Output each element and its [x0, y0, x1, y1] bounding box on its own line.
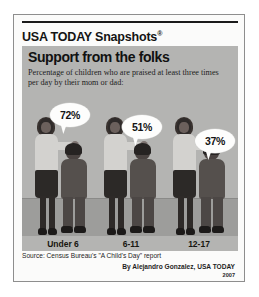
adult-leg-right	[49, 196, 55, 230]
adult-leg-right	[118, 196, 124, 230]
child-figure	[60, 144, 90, 236]
value-label: 37%	[195, 129, 235, 153]
child-leg-left	[201, 197, 211, 228]
child-torso	[199, 159, 225, 199]
chart-title: Support from the folks	[28, 49, 169, 65]
adult-face	[110, 122, 120, 133]
child-shoe-left	[61, 226, 73, 233]
adult-leg-right	[187, 196, 193, 230]
masthead-brand-text: USA TODAY Snapshots	[22, 30, 157, 44]
value-label: 51%	[122, 115, 162, 139]
chart-subtitle: Percentage of children who are praised a…	[28, 68, 230, 87]
byline-year: 2007	[223, 272, 235, 278]
child-torso	[130, 159, 156, 199]
child-leg-left	[132, 197, 142, 228]
adult-leg-left	[40, 196, 46, 230]
axis-label-12-17: 12-17	[166, 239, 232, 249]
masthead: USA TODAY Snapshots®	[22, 21, 238, 48]
child-shoe-left	[199, 226, 211, 233]
registered-trademark-icon: ®	[157, 30, 162, 37]
adult-shoe-left	[107, 228, 116, 235]
child-shoe-left	[130, 226, 142, 233]
adult-face	[179, 122, 189, 133]
child-figure	[129, 144, 159, 236]
adult-figure	[32, 118, 62, 236]
source-note: Source: Census Bureau's "A Child's Day" …	[22, 252, 238, 259]
figure-group	[30, 116, 92, 236]
value-bubble: 72%	[50, 103, 90, 127]
child-shoe-right	[212, 226, 224, 233]
child-leg-left	[63, 197, 73, 228]
adult-torso	[173, 134, 196, 172]
child-shoe-right	[74, 226, 86, 233]
adult-shoe-left	[38, 228, 47, 235]
adult-shoe-right	[48, 228, 57, 235]
adult-leg-left	[178, 196, 184, 230]
usa-today-snapshot-card: USA TODAY Snapshots® Support from the fo…	[13, 14, 245, 282]
adult-skirt	[173, 170, 196, 198]
axis-label-6-11: 6-11	[98, 239, 164, 249]
adult-shoe-right	[186, 228, 195, 235]
child-torso	[61, 159, 87, 199]
masthead-top-rule	[22, 21, 238, 23]
child-hair	[65, 143, 82, 155]
chart-panel: Support from the folks Percentage of chi…	[22, 46, 238, 251]
adult-shoe-left	[176, 228, 185, 235]
child-shoe-right	[143, 226, 155, 233]
value-bubble: 51%	[122, 115, 162, 139]
child-leg-right	[75, 197, 85, 228]
adult-torso	[35, 134, 58, 172]
value-label: 72%	[50, 103, 90, 127]
adult-skirt	[35, 170, 58, 198]
child-leg-right	[144, 197, 154, 228]
byline: By Alejandro Gonzalez, USA TODAY	[122, 263, 235, 270]
masthead-brand-title: USA TODAY Snapshots®	[22, 26, 238, 45]
adult-shoe-right	[117, 228, 126, 235]
adult-torso	[104, 134, 127, 172]
axis-label-under-6: Under 6	[30, 239, 96, 249]
child-leg-right	[213, 197, 223, 228]
adult-skirt	[104, 170, 127, 198]
adult-leg-left	[109, 196, 115, 230]
value-bubble: 37%	[195, 129, 235, 153]
